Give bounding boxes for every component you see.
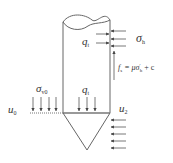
u0-label: u0 bbox=[8, 103, 17, 116]
u2-arrows bbox=[111, 120, 126, 148]
cone-penetration-diagram: qt σh fs = μσ′h + c σv0 qt u0 u2 bbox=[0, 0, 173, 163]
sigma-h-label: σh bbox=[136, 31, 145, 45]
sigma-v0-arrows bbox=[33, 97, 56, 111]
qt-bottom-arrows bbox=[79, 97, 95, 111]
qt-top-label: qt bbox=[82, 35, 90, 48]
shaft bbox=[63, 15, 110, 113]
qt-side-arrows bbox=[96, 34, 109, 43]
fs-formula: fs = μσ′h + c bbox=[118, 63, 155, 73]
qt-bottom-label: qt bbox=[82, 83, 90, 96]
sigma-h-arrows bbox=[111, 31, 126, 46]
cone-tip bbox=[63, 113, 110, 150]
u2-label: u2 bbox=[119, 102, 128, 115]
sigma-v0-label: σv0 bbox=[36, 82, 47, 95]
